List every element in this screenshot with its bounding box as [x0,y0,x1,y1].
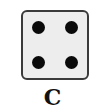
pip-bottom-left-icon [32,56,45,69]
pip-top-right-icon [65,21,78,34]
pip-top-left-icon [32,21,45,34]
die-face-four [21,10,89,80]
pip-bottom-right-icon [65,56,78,69]
option-label: C [0,86,105,105]
